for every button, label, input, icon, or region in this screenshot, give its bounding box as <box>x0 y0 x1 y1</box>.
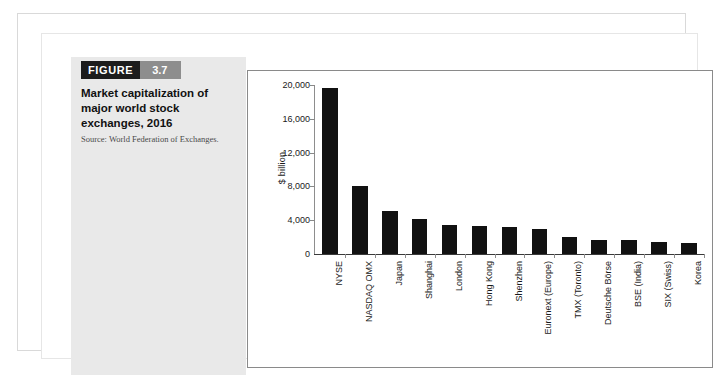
bar <box>591 240 607 254</box>
x-axis-tick-mark <box>465 254 466 258</box>
x-axis-category-label: Shenzhen <box>514 261 524 302</box>
x-axis-tick-mark <box>375 254 376 258</box>
x-axis-category-label: Deutsche Börse <box>603 261 613 325</box>
figure-badge: FIGURE 3.7 <box>81 61 181 79</box>
x-axis-tick-mark <box>435 254 436 258</box>
y-axis-tick-label: 20,000 <box>282 80 310 90</box>
x-axis-tick-mark <box>345 254 346 258</box>
figure-badge-word: FIGURE <box>81 61 140 79</box>
x-axis-tick-mark <box>614 254 615 258</box>
bar <box>621 240 637 254</box>
bar-column <box>651 85 667 254</box>
bar <box>382 211 398 254</box>
bar <box>651 242 667 254</box>
x-axis-category-label: Japan <box>394 261 404 286</box>
x-axis-tick-mark <box>405 254 406 258</box>
bar-column <box>442 85 458 254</box>
x-axis-line <box>314 254 704 255</box>
x-axis-category-label: Hong Kong <box>484 261 494 306</box>
bar-column <box>322 85 338 254</box>
bar-column <box>591 85 607 254</box>
x-axis-category-label: NYSE <box>334 261 344 286</box>
bar <box>502 227 518 254</box>
figure-badge-number: 3.7 <box>140 61 181 79</box>
bar <box>322 88 338 254</box>
figure-title: Market capitalization of major world sto… <box>81 86 221 131</box>
bar-column <box>562 85 578 254</box>
bar-column <box>502 85 518 254</box>
bar <box>562 237 578 254</box>
y-axis-tick-label: 12,000 <box>282 148 310 158</box>
x-axis-tick-mark <box>524 254 525 258</box>
bar <box>472 226 488 254</box>
y-axis-tick-mark <box>310 153 315 154</box>
bar <box>442 225 458 254</box>
x-axis-tick-mark <box>495 254 496 258</box>
bar-column <box>621 85 637 254</box>
x-axis-tick-mark <box>584 254 585 258</box>
x-axis-category-label: London <box>454 261 464 291</box>
figure-source: Source: World Federation of Exchanges. <box>81 133 221 145</box>
x-axis-category-label: Shanghai <box>424 261 434 299</box>
y-axis-tick-label: 8,000 <box>287 181 310 191</box>
x-axis-tick-mark <box>704 254 705 258</box>
x-axis-tick-mark <box>554 254 555 258</box>
bar-column <box>532 85 548 254</box>
figure-panel: FIGURE 3.7 Market capitalization of majo… <box>41 33 698 359</box>
y-axis-tick-mark <box>310 220 315 221</box>
y-axis-tick-label: 4,000 <box>287 215 310 225</box>
y-axis-tick-mark <box>310 85 315 86</box>
bar <box>352 186 368 254</box>
x-axis-category-label: SIX (Swiss) <box>663 261 673 308</box>
y-axis-tick-mark <box>310 186 315 187</box>
x-axis-tick-mark <box>644 254 645 258</box>
figure-outer-frame: FIGURE 3.7 Market capitalization of majo… <box>17 13 686 351</box>
y-axis-tick-mark <box>310 119 315 120</box>
bar <box>532 229 548 254</box>
x-axis-category-label: TMX (Toronto) <box>573 261 583 319</box>
y-axis-tick-label: 0 <box>305 249 310 259</box>
x-axis-category-label: BSE (India) <box>633 261 643 307</box>
x-axis-tick-mark <box>674 254 675 258</box>
x-axis-category-label: NASDAQ OMX <box>364 261 374 322</box>
bar-series <box>315 85 704 254</box>
x-axis-category-label: Euronext (Europe) <box>543 261 553 335</box>
bar-column <box>412 85 428 254</box>
bar-column <box>681 85 697 254</box>
bar-column <box>382 85 398 254</box>
y-axis-tick-labels: 04,0008,00012,00016,00020,000 <box>262 71 310 369</box>
plot-area: $ billion 04,0008,00012,00016,00020,000 … <box>248 71 714 369</box>
y-axis-tick-label: 16,000 <box>282 114 310 124</box>
x-axis-category-label: Korea <box>693 261 703 285</box>
chart-panel: $ billion 04,0008,00012,00016,00020,000 … <box>247 70 713 368</box>
bar-column <box>352 85 368 254</box>
bar <box>681 243 697 254</box>
bar-column <box>472 85 488 254</box>
bar <box>412 219 428 254</box>
